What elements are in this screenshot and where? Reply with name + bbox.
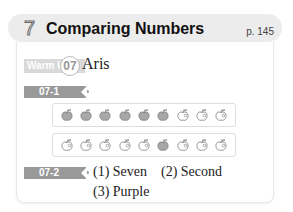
- answer-2: (2) Second: [161, 164, 222, 180]
- apple-outline-icon: [98, 138, 112, 152]
- apple-filled-icon: [79, 108, 93, 122]
- apple-filled-icon: [137, 108, 151, 122]
- apple-row-1: [52, 103, 236, 127]
- apple-outline-icon: [214, 108, 228, 122]
- question-tag-07-2: 07-2: [24, 167, 86, 179]
- tag-dot-icon: [86, 171, 89, 174]
- apple-outline-icon: [195, 138, 209, 152]
- apple-outline-icon: [118, 138, 132, 152]
- page-reference: p. 145: [246, 26, 274, 37]
- apple-outline-icon: [79, 138, 93, 152]
- apple-outline-icon: [176, 138, 190, 152]
- apple-filled-icon: [156, 108, 170, 122]
- apple-filled-icon: [118, 108, 132, 122]
- apple-outline-icon: [214, 138, 228, 152]
- question-tag-07-1: 07-1: [24, 86, 86, 98]
- chapter-header: 7 Comparing Numbers p. 145: [8, 14, 282, 42]
- apple-outline-icon: [176, 108, 190, 122]
- apple-filled-icon: [98, 108, 112, 122]
- apple-outline-icon: [195, 108, 209, 122]
- chapter-number: 7: [24, 17, 35, 39]
- tag-dot-icon: [86, 90, 89, 93]
- chapter-title: Comparing Numbers: [46, 19, 204, 39]
- apple-outline-icon: [60, 138, 74, 152]
- apple-row-2: [52, 133, 236, 157]
- apple-outline-icon: [137, 138, 151, 152]
- apple-filled-icon: [156, 138, 170, 152]
- answer-3: (3) Purple: [93, 184, 149, 200]
- warm-up-number: 07: [60, 56, 80, 76]
- warm-up-answer: Aris: [82, 55, 110, 73]
- apple-filled-icon: [60, 108, 74, 122]
- answer-1: (1) Seven: [93, 164, 147, 180]
